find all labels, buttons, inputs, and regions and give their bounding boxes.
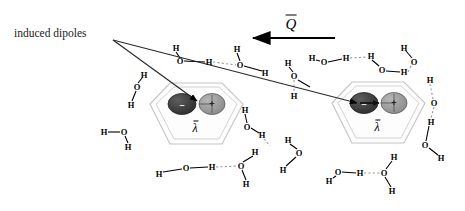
hydrogen-bond	[264, 139, 270, 146]
covalent-bond	[163, 169, 182, 172]
hydrogen-atom-label: H	[401, 67, 408, 77]
charge-symbol-text: Q	[286, 16, 297, 33]
oxygen-atom-label: O	[321, 57, 328, 67]
oxygen-atom-label: O	[381, 168, 388, 178]
right-positive-sign: +	[391, 98, 396, 108]
oxygen-atom-label: O	[237, 60, 244, 70]
hydrogen-atom-label: H	[173, 43, 180, 53]
hydrogen-atom-label: H	[389, 186, 396, 196]
oxygen-atom-label: O	[422, 140, 429, 150]
hydrogen-atom-label: H	[357, 168, 364, 178]
covalent-bond	[429, 148, 438, 155]
oxygen-atom-label: O	[121, 127, 128, 137]
lambda-symbol-text: λ	[192, 121, 197, 136]
hydrogen-atom-label: H	[285, 58, 292, 68]
hydrogen-atom-label: H	[101, 127, 108, 137]
hydrogen-atom-label: H	[262, 68, 269, 78]
hydrogen-bond	[350, 57, 367, 58]
covalent-bond	[342, 172, 356, 173]
hydrogen-atom-label: H	[243, 179, 250, 189]
hydrogen-atom-label: H	[428, 117, 435, 127]
oxygen-atom-label: O	[335, 167, 342, 177]
hydrogen-atom-label: H	[285, 135, 292, 145]
hydrogen-atom-label: H	[368, 51, 375, 61]
covalent-bond	[386, 71, 400, 72]
induced-dipoles-label: induced dipoles	[14, 27, 87, 39]
left-positive-sign: +	[209, 99, 214, 109]
hydrogen-atom-label: H	[427, 75, 434, 85]
charge-vector-symbol: Q	[286, 16, 297, 33]
oxygen-atom-label: O	[431, 98, 438, 108]
hydrogen-atom-label: H	[309, 53, 316, 63]
hydrogen-atom-label: H	[206, 57, 213, 67]
covalent-bond	[244, 66, 262, 71]
right-cage-lambda-label: λ	[374, 120, 379, 135]
lambda-symbol-text: λ	[374, 120, 379, 135]
oxygen-atom-label: O	[296, 148, 303, 158]
leader-to-left-cage	[113, 40, 197, 101]
oxygen-atom-label: O	[238, 161, 245, 171]
hydrogen-atom-label: H	[209, 162, 216, 172]
hydrogen-atom-label: H	[141, 70, 148, 80]
hydrogen-atom-label: H	[391, 152, 398, 162]
hydrogen-atom-label: H	[280, 165, 287, 175]
hydrogen-atom-label: H	[291, 91, 298, 101]
hydrogen-atom-label: H	[259, 130, 266, 140]
hydrogen-atom-label: H	[326, 176, 333, 186]
hydrogen-bond	[430, 84, 433, 99]
hydrogen-atom-label: H	[156, 169, 163, 179]
covalent-bond	[190, 167, 208, 168]
oxygen-atom-label: O	[134, 82, 141, 92]
oxygen-atom-label: O	[379, 65, 386, 75]
hydrogen-atom-label: H	[234, 44, 241, 54]
covalent-bond	[316, 60, 320, 61]
hydrogen-atom-label: H	[242, 105, 249, 115]
hydrogen-atom-label: H	[252, 147, 259, 157]
covalent-bond	[286, 157, 296, 166]
hydrogen-atom-label: H	[438, 153, 445, 163]
left-cage-lambda-label: λ	[192, 121, 197, 136]
left-negative-sign: –	[179, 100, 184, 110]
hydrogen-atom-label: H	[128, 100, 135, 110]
covalent-bond	[298, 80, 310, 87]
hydrogen-bond	[216, 166, 237, 167]
oxygen-atom-label: O	[244, 122, 251, 132]
oxygen-atom-label: O	[183, 163, 190, 173]
hydrogen-atom-label: H	[401, 43, 408, 53]
oxygen-atom-label: O	[177, 56, 184, 66]
induced-dipole-diagram: induced dipoles Q λ λ – + – + HOHHOHHOHH…	[0, 0, 465, 211]
covalent-bond	[328, 59, 342, 62]
hydrogen-atom-label: H	[125, 142, 132, 152]
oxygen-atom-label: O	[291, 71, 298, 81]
hydrogen-bond	[213, 62, 236, 65]
hydrogen-atom-label: H	[343, 53, 350, 63]
right-negative-sign: –	[361, 99, 366, 109]
covalent-bond	[426, 126, 429, 141]
oxygen-atom-label: O	[411, 57, 418, 67]
